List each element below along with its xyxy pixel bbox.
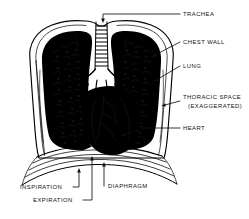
lung-left	[42, 31, 92, 150]
tracheal-rings	[95, 26, 108, 66]
leader-inspiration	[73, 168, 81, 187]
label-lung: LUNG	[183, 63, 201, 69]
thorax-diagram-svg: TRACHEA CHEST WALL LUNG THORACIC SPACE (…	[0, 0, 249, 219]
label-trachea: TRACHEA	[183, 11, 214, 17]
label-heart: HEART	[183, 125, 205, 131]
label-expiration: EXPIRATION	[33, 197, 73, 203]
thorax-drawing	[22, 21, 177, 185]
label-chest-wall: CHEST WALL	[183, 39, 225, 45]
leader-diaphragm	[102, 162, 106, 186]
label-diaphragm: DIAPHRAGM	[108, 183, 148, 189]
label-thoracic-space-line1: THORACIC SPACE	[183, 94, 241, 100]
heart-structure	[83, 86, 140, 155]
label-inspiration: INSPIRATION	[20, 184, 62, 190]
leader-expiration	[83, 156, 94, 200]
anatomical-figure: TRACHEA CHEST WALL LUNG THORACIC SPACE (…	[0, 0, 249, 219]
label-thoracic-space-line2: (EXAGGERATED)	[188, 103, 242, 109]
